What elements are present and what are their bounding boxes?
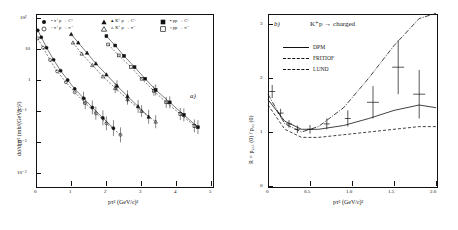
- panel-a: 10² 10 1 10⁻¹ 10⁻² 10⁻³ 0 1 2 3 4 5 dσ/d…: [8, 6, 226, 216]
- panel-b-data-layer: [238, 6, 450, 216]
- panel-a-data-layer: [8, 6, 226, 216]
- figure-page: 10² 10 1 10⁻¹ 10⁻² 10⁻³ 0 1 2 3 4 5 dσ/d…: [0, 0, 458, 230]
- panel-b: b) K⁺p → charged DPM FRITIOF LUND 0 1 2 …: [238, 6, 450, 216]
